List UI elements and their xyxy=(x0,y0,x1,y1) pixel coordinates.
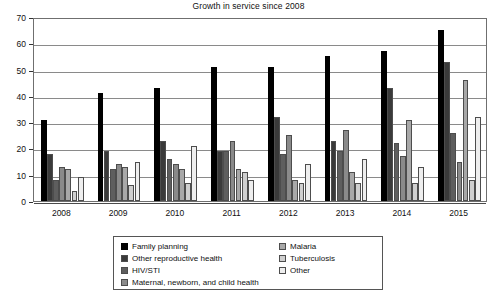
y-tick-label-70: 70 xyxy=(17,13,26,23)
bar-2012-maternal-newborn-and-child-health xyxy=(286,135,292,201)
x-tick-label-2011: 2011 xyxy=(222,208,240,218)
y-tick-label-20: 20 xyxy=(17,144,26,154)
bar-2008-family-planning xyxy=(41,120,47,201)
bar-2010-other xyxy=(191,146,197,201)
legend-label: HIV/STI xyxy=(132,267,160,275)
bar-2014-maternal-newborn-and-child-health xyxy=(400,156,406,201)
bar-group-2015 xyxy=(438,19,481,201)
bar-2013-hiv-sti xyxy=(337,151,343,201)
bar-2010-other-reproductive-health xyxy=(160,141,166,201)
bar-2012-other-reproductive-health xyxy=(274,117,280,201)
bar-2013-maternal-newborn-and-child-health xyxy=(343,130,349,201)
y-tick-label-40: 40 xyxy=(17,92,26,102)
bar-2015-hiv-sti xyxy=(450,133,456,201)
bar-2012-other xyxy=(305,164,311,201)
bar-2012-hiv-sti xyxy=(280,154,286,201)
legend-swatch-icon xyxy=(121,243,128,250)
bar-series-container xyxy=(34,19,486,201)
legend-item-maternal-newborn-and-child-health[interactable]: Maternal, newborn, and child health xyxy=(121,277,259,289)
bar-group-2012 xyxy=(268,19,311,201)
legend-swatch-icon xyxy=(121,267,128,274)
bar-2014-malaria xyxy=(406,120,412,201)
legend-label: Other reproductive health xyxy=(132,255,222,263)
bar-2008-maternal-newborn-and-child-health xyxy=(59,167,65,201)
chart-title: Growth in service since 2008 xyxy=(0,1,497,11)
bar-2014-other xyxy=(418,167,424,201)
x-tick-label-2010: 2010 xyxy=(165,208,184,218)
x-tick-label-2015: 2015 xyxy=(449,208,468,218)
bar-2015-other xyxy=(475,117,481,201)
bar-2015-other-reproductive-health xyxy=(444,62,450,201)
x-axis: 20082009201020112012201320142015 xyxy=(33,203,487,223)
legend-swatch-icon xyxy=(279,267,286,274)
legend-item-tuberculosis[interactable]: Tuberculosis xyxy=(279,253,335,265)
bar-2009-other xyxy=(135,162,141,201)
bar-2011-hiv-sti xyxy=(223,151,229,201)
chart-legend: Family planningOther reproductive health… xyxy=(113,236,383,290)
bar-2009-maternal-newborn-and-child-health xyxy=(116,164,122,201)
x-tick-label-2012: 2012 xyxy=(279,208,298,218)
bar-group-2009 xyxy=(98,19,141,201)
bar-2009-hiv-sti xyxy=(110,169,116,201)
bar-2015-tuberculosis xyxy=(469,180,475,201)
bar-group-2013 xyxy=(325,19,368,201)
bar-2010-tuberculosis xyxy=(185,183,191,201)
bar-2008-other-reproductive-health xyxy=(47,154,53,201)
legend-item-family-planning[interactable]: Family planning xyxy=(121,241,259,253)
legend-label: Other xyxy=(290,267,310,275)
legend-item-hiv-sti[interactable]: HIV/STI xyxy=(121,265,259,277)
legend-label: Maternal, newborn, and child health xyxy=(132,279,259,287)
legend-label: Tuberculosis xyxy=(290,255,335,263)
bar-2015-malaria xyxy=(463,80,469,201)
bar-2011-family-planning xyxy=(211,67,217,201)
bar-2012-family-planning xyxy=(268,67,274,201)
legend-item-other[interactable]: Other xyxy=(279,265,335,277)
bar-group-2014 xyxy=(381,19,424,201)
bar-2011-malaria xyxy=(236,169,242,201)
bar-2010-malaria xyxy=(179,169,185,201)
legend-label: Family planning xyxy=(132,243,188,251)
y-tick-label-30: 30 xyxy=(17,118,26,128)
y-tick-label-0: 0 xyxy=(21,197,26,207)
y-tick-label-60: 60 xyxy=(17,39,26,49)
bar-2014-hiv-sti xyxy=(394,143,400,201)
bar-2013-malaria xyxy=(349,172,355,201)
bar-2013-other-reproductive-health xyxy=(331,141,337,201)
y-tick-label-50: 50 xyxy=(17,66,26,76)
legend-swatch-icon xyxy=(121,279,128,286)
bar-2009-family-planning xyxy=(98,93,104,201)
legend-column-left: Family planningOther reproductive health… xyxy=(121,241,259,289)
bar-2015-maternal-newborn-and-child-health xyxy=(457,162,463,201)
bar-2014-family-planning xyxy=(381,51,387,201)
bar-2009-malaria xyxy=(122,167,128,201)
chart-figure: Growth in service since 2008 01020304050… xyxy=(0,0,497,298)
y-tick-label-10: 10 xyxy=(17,171,26,181)
bar-2008-malaria xyxy=(65,169,71,201)
bar-2012-tuberculosis xyxy=(299,183,305,201)
legend-label: Malaria xyxy=(290,243,316,251)
bar-2008-other xyxy=(78,177,84,201)
bar-2015-family-planning xyxy=(438,30,444,201)
legend-swatch-icon xyxy=(279,255,286,262)
bar-group-2011 xyxy=(211,19,254,201)
bar-group-2008 xyxy=(41,19,84,201)
bar-2014-tuberculosis xyxy=(412,183,418,201)
bar-2009-tuberculosis xyxy=(128,185,134,201)
bar-2011-maternal-newborn-and-child-health xyxy=(230,141,236,201)
legend-item-other-reproductive-health[interactable]: Other reproductive health xyxy=(121,253,259,265)
x-tick-label-2009: 2009 xyxy=(109,208,128,218)
bar-2010-maternal-newborn-and-child-health xyxy=(173,164,179,201)
plot-area xyxy=(33,18,487,202)
bar-2010-hiv-sti xyxy=(167,159,173,201)
legend-column-right: MalariaTuberculosisOther xyxy=(279,241,335,277)
x-tick-label-2013: 2013 xyxy=(336,208,355,218)
y-axis: 010203040506070 xyxy=(0,18,33,202)
bar-2011-other-reproductive-health xyxy=(217,151,223,201)
bar-2011-tuberculosis xyxy=(242,172,248,201)
legend-item-malaria[interactable]: Malaria xyxy=(279,241,335,253)
bar-2008-tuberculosis xyxy=(72,191,78,202)
bar-2012-malaria xyxy=(292,180,298,201)
bar-2013-tuberculosis xyxy=(355,183,361,201)
bar-2013-other xyxy=(362,159,368,201)
bar-2008-hiv-sti xyxy=(53,180,59,201)
